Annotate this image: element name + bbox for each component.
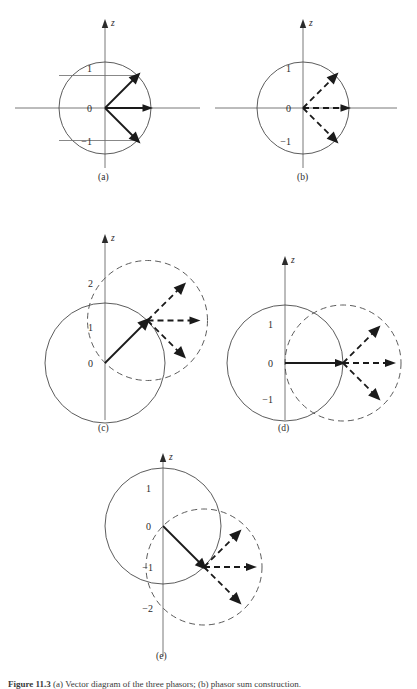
axis-label-a: z [110, 18, 115, 28]
axis-label-d: z [290, 255, 295, 265]
tick-label-e-m2: −2 [142, 603, 153, 614]
phasor-heads-e [229, 530, 257, 605]
axes-a [15, 19, 200, 168]
phasors-c [148, 288, 195, 353]
tick-label-b-0: 0 [286, 103, 291, 114]
figure-caption-prefix: Figure 11.3 [8, 679, 51, 689]
tick-label-b-1: 1 [286, 63, 291, 74]
phasors-a [105, 78, 147, 138]
panel-label-c: (c) [98, 423, 109, 433]
panel-label-e: (e) [156, 651, 167, 661]
axis-label-c: z [110, 233, 115, 243]
figure-container: 1 0 −1 z (a) [0, 0, 417, 689]
phasors-d [343, 332, 389, 394]
panel-a: 1 0 −1 z (a) [0, 0, 210, 200]
phasors-e [204, 536, 250, 598]
tick-label-e-m1: −1 [142, 562, 153, 573]
axes-c [102, 234, 108, 420]
tick-label-d-1: 1 [268, 319, 273, 330]
panel-label-b: (b) [297, 172, 308, 182]
panel-c: 2 1 0 z (c) [0, 215, 230, 430]
tick-label-c-0: 0 [88, 358, 93, 369]
panel-label-a: (a) [98, 172, 109, 182]
panel-d: 1 0 −1 z (d) [210, 215, 417, 430]
tick-label-d-m1: −1 [262, 394, 273, 405]
tick-label-c-1: 1 [88, 322, 93, 333]
panel-b: 1 0 −1 z (b) [207, 0, 417, 200]
panel-e: 1 0 −1 −2 z (e) [105, 438, 320, 663]
tick-label-e-1: 1 [146, 483, 151, 494]
panel-label-d: (d) [278, 423, 289, 433]
tick-label-d-0: 0 [268, 358, 273, 369]
figure-caption-text: (a) Vector diagram of the three phasors;… [53, 679, 301, 689]
phasor-heads-d [368, 326, 396, 401]
axes-e [160, 453, 166, 656]
tick-label-a-m1: −1 [81, 136, 92, 147]
tick-label-a-0: 0 [87, 103, 92, 114]
tick-label-c-2: 2 [88, 278, 93, 289]
axis-label-b: z [308, 18, 313, 28]
tick-label-b-m1: −1 [280, 136, 291, 147]
axes-b [215, 19, 397, 168]
tick-label-e-0: 0 [146, 521, 151, 532]
carrier-e [163, 526, 199, 562]
axis-label-e: z [168, 452, 173, 462]
tick-label-a-1: 1 [87, 63, 92, 74]
axes-d [282, 256, 288, 420]
carrier-c [105, 326, 142, 363]
figure-caption: Figure 11.3 (a) Vector diagram of the th… [8, 679, 413, 689]
